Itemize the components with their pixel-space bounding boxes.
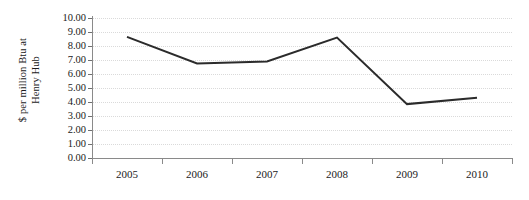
y-axis-tick-label: 7.00 <box>40 55 86 65</box>
x-axis-tick-mark <box>512 158 513 164</box>
x-axis-tick-label: 2007 <box>232 167 302 181</box>
y-axis-tick-label: 0.00 <box>40 153 86 163</box>
y-axis-tick-label: 5.00 <box>40 83 86 93</box>
y-axis-tick-label: 4.00 <box>40 97 86 107</box>
y-axis-tick-label: 2.00 <box>40 125 86 135</box>
x-axis-tick-mark <box>232 158 233 164</box>
x-axis-tick-mark <box>442 158 443 164</box>
data-series-layer <box>92 18 512 158</box>
x-axis-tick-label: 2009 <box>372 167 442 181</box>
x-axis-tick-label: 2006 <box>162 167 232 181</box>
x-axis-tick-labels: 200520062007200820092010 <box>92 167 512 183</box>
y-axis-tick-label: 1.00 <box>40 139 86 149</box>
y-axis-tick-label: 9.00 <box>40 27 86 37</box>
x-axis-tick-label: 2008 <box>302 167 372 181</box>
y-axis-tick-label: 8.00 <box>40 41 86 51</box>
x-axis-tick-label: 2010 <box>442 167 512 181</box>
x-axis-tick-mark <box>302 158 303 164</box>
y-axis-tick-label: 10.00 <box>40 13 86 23</box>
y-axis-tick-label: 6.00 <box>40 69 86 79</box>
x-axis-tick-mark <box>92 158 93 164</box>
x-axis-tick-mark <box>162 158 163 164</box>
line-chart: $ per million Btu at Henry Hub 10.009.00… <box>0 0 529 200</box>
x-axis-tick-label: 2005 <box>92 167 162 181</box>
x-axis-tick-marks <box>92 158 513 164</box>
series-line-henry-hub <box>127 37 477 104</box>
y-axis-tick-label: 3.00 <box>40 111 86 121</box>
y-axis-tick-labels: 10.009.008.007.006.005.004.003.002.001.0… <box>38 18 86 158</box>
y-axis-title-line-1: $ per million Btu at <box>16 38 29 122</box>
x-axis-tick-mark <box>372 158 373 164</box>
